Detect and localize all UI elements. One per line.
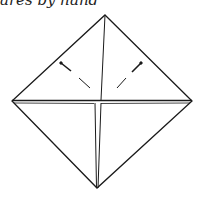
horizontal-fold-edge-bottom xyxy=(14,103,94,104)
horizontal-fold-edge-bottom-right xyxy=(101,103,190,104)
square-outline xyxy=(12,15,192,188)
origami-diagram xyxy=(0,0,203,201)
